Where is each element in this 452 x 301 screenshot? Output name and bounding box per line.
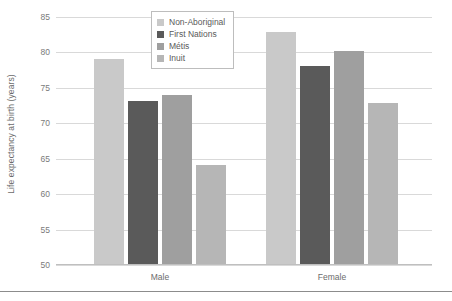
y-tick-label: 85 <box>41 12 50 22</box>
legend-swatch-metis <box>157 43 164 50</box>
y-tick-label: 60 <box>41 189 50 199</box>
chart-legend: Non-AboriginalFirst NationsMétisInuit <box>151 11 234 69</box>
x-axis-label-male: Male <box>151 272 169 282</box>
legend-label: Métis <box>169 40 189 52</box>
legend-swatch-inuit <box>157 55 164 62</box>
legend-label: Non-Aboriginal <box>169 16 225 28</box>
y-tick-label: 65 <box>41 154 50 164</box>
gridline <box>56 17 432 18</box>
legend-item-m-tis[interactable]: Métis <box>157 40 225 52</box>
legend-label: First Nations <box>169 28 217 40</box>
y-tick-label: 80 <box>41 47 50 57</box>
x-axis-label-female: Female <box>318 272 346 282</box>
y-tick-label: 70 <box>41 118 50 128</box>
y-tick-label: 75 <box>41 83 50 93</box>
plot-area: 8580757065605550 <box>56 17 432 265</box>
y-tick-label: 55 <box>41 225 50 235</box>
bar-female-inuit <box>368 103 398 264</box>
bottom-divider <box>0 291 452 292</box>
bar-male-non-aboriginal <box>94 59 124 264</box>
gridline <box>56 265 432 266</box>
bar-female-first-nations <box>300 66 330 264</box>
legend-swatch-non-aboriginal <box>157 19 164 26</box>
grouped-bar-chart: Life expectancy at birth (years) 8580757… <box>0 0 452 301</box>
legend-swatch-first-nations <box>157 31 164 38</box>
x-axis-line <box>56 264 432 265</box>
bar-female-m-tis <box>334 51 364 264</box>
bar-male-first-nations <box>128 101 158 264</box>
legend-item-inuit[interactable]: Inuit <box>157 52 225 64</box>
legend-item-non-aboriginal[interactable]: Non-Aboriginal <box>157 16 225 28</box>
y-axis-title-label: Life expectancy at birth (years) <box>6 74 16 193</box>
bar-female-non-aboriginal <box>266 32 296 264</box>
gridline <box>56 52 432 53</box>
legend-label: Inuit <box>169 52 185 64</box>
bar-male-m-tis <box>162 95 192 264</box>
legend-item-first-nations[interactable]: First Nations <box>157 28 225 40</box>
bar-male-inuit <box>196 165 226 264</box>
y-axis-title: Life expectancy at birth (years) <box>0 0 22 268</box>
y-tick-label: 50 <box>41 260 50 270</box>
